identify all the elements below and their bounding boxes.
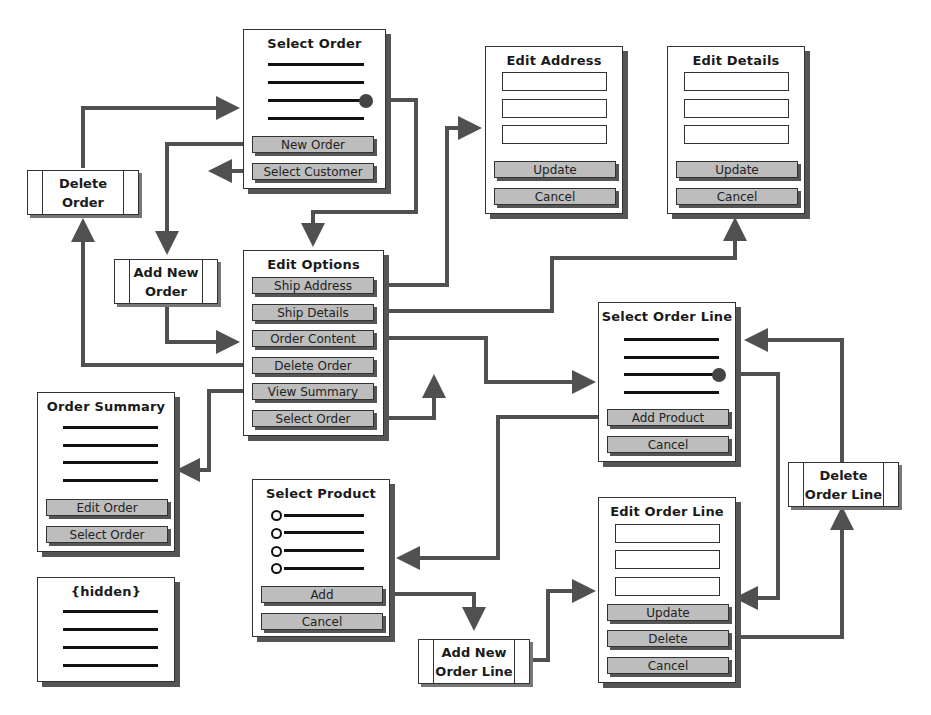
- product-row: [284, 549, 364, 552]
- delete-button[interactable]: Delete: [607, 630, 729, 647]
- list-row[interactable]: [624, 391, 719, 394]
- list-row[interactable]: [624, 373, 719, 376]
- process-add-new-order-line: Add New Order Line: [418, 639, 530, 684]
- process-add-new-order: Add New Order: [114, 259, 218, 304]
- cancel-button[interactable]: Cancel: [607, 436, 729, 453]
- select-order-button[interactable]: Select Order: [46, 526, 168, 543]
- order-content-button[interactable]: Order Content: [252, 330, 374, 347]
- screen-edit-details: Edit Details Update Cancel: [667, 46, 805, 214]
- address-field-1[interactable]: [502, 72, 607, 91]
- product-row: [284, 514, 364, 517]
- summary-row: [63, 426, 158, 429]
- select-customer-button[interactable]: Select Customer: [252, 163, 374, 180]
- radio-icon[interactable]: [271, 563, 282, 574]
- hidden-row: [63, 610, 158, 613]
- screen-title: Select Product: [253, 486, 389, 501]
- details-field-3[interactable]: [684, 125, 789, 144]
- list-row[interactable]: [268, 99, 364, 102]
- add-product-button[interactable]: Add Product: [607, 409, 729, 426]
- list-row[interactable]: [624, 356, 719, 359]
- new-order-button[interactable]: New Order: [252, 136, 374, 153]
- radio-icon[interactable]: [271, 510, 282, 521]
- list-row[interactable]: [268, 81, 364, 84]
- selection-dot-icon: [712, 368, 726, 382]
- screen-select-order: Select Order New Order Select Customer: [243, 29, 386, 189]
- screen-select-order-line: Select Order Line Add Product Cancel: [598, 302, 736, 462]
- ship-details-button[interactable]: Ship Details: [252, 304, 374, 321]
- ship-address-button[interactable]: Ship Address: [252, 277, 374, 294]
- screen-title: Select Order Line: [599, 309, 735, 324]
- cancel-button[interactable]: Cancel: [607, 657, 729, 674]
- order-line-field-2[interactable]: [615, 550, 720, 569]
- update-button[interactable]: Update: [607, 604, 729, 621]
- list-row[interactable]: [268, 117, 364, 120]
- selection-dot-icon: [359, 94, 373, 108]
- cancel-button[interactable]: Cancel: [261, 613, 383, 630]
- screen-edit-address: Edit Address Update Cancel: [485, 46, 623, 214]
- product-row: [284, 567, 364, 570]
- radio-icon[interactable]: [271, 546, 282, 557]
- details-field-1[interactable]: [684, 72, 789, 91]
- screen-title: Edit Options: [244, 257, 383, 272]
- hidden-row: [63, 646, 158, 649]
- edit-order-button[interactable]: Edit Order: [46, 499, 168, 516]
- product-row: [284, 531, 364, 534]
- screen-title: Edit Order Line: [599, 504, 735, 519]
- screen-hidden: {hidden}: [37, 577, 175, 682]
- update-button[interactable]: Update: [676, 161, 798, 178]
- process-delete-order: Delete Order: [27, 170, 139, 215]
- screen-title: Select Order: [244, 36, 385, 51]
- summary-row: [63, 479, 158, 482]
- address-field-3[interactable]: [502, 125, 607, 144]
- radio-icon[interactable]: [271, 528, 282, 539]
- view-summary-button[interactable]: View Summary: [252, 383, 374, 400]
- hidden-row: [63, 664, 158, 667]
- process-delete-order-line: Delete Order Line: [788, 462, 899, 507]
- hidden-row: [63, 628, 158, 631]
- screen-title: Order Summary: [38, 399, 174, 414]
- summary-row: [63, 444, 158, 447]
- address-field-2[interactable]: [502, 99, 607, 118]
- order-line-field-3[interactable]: [615, 577, 720, 596]
- select-order-button[interactable]: Select Order: [252, 410, 374, 427]
- cancel-button[interactable]: Cancel: [676, 188, 798, 205]
- summary-row: [63, 461, 158, 464]
- screen-edit-order-line: Edit Order Line Update Delete Cancel: [598, 497, 736, 683]
- screen-edit-options: Edit Options Ship Address Ship Details O…: [243, 250, 384, 436]
- screen-order-summary: Order Summary Edit Order Select Order: [37, 392, 175, 552]
- screen-select-product: Select Product Add Cancel: [252, 479, 390, 637]
- screen-title: Edit Details: [668, 53, 804, 68]
- add-button[interactable]: Add: [261, 586, 383, 603]
- details-field-2[interactable]: [684, 99, 789, 118]
- list-row[interactable]: [624, 338, 719, 341]
- order-line-field-1[interactable]: [615, 524, 720, 543]
- cancel-button[interactable]: Cancel: [494, 188, 616, 205]
- delete-order-button[interactable]: Delete Order: [252, 357, 374, 374]
- screen-title: Edit Address: [486, 53, 622, 68]
- update-button[interactable]: Update: [494, 161, 616, 178]
- list-row[interactable]: [268, 63, 364, 66]
- screen-title: {hidden}: [38, 584, 174, 599]
